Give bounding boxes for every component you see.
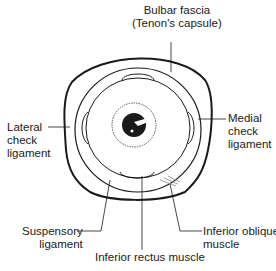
label-medial-check-ligament: Medial check ligament [228,112,271,151]
pupil [122,113,146,137]
label-lateral-check-ligament: Lateral check ligament [7,121,50,160]
label-inferior-rectus-muscle: Inferior rectus muscle [95,251,205,264]
label-inferior-oblique-muscle: Inferior oblique muscle [203,225,276,251]
label-suspensory-ligament: Suspensory ligament [22,225,83,251]
label-bulbar-fascia: Bulbar fascia (Tenon's capsule) [132,4,222,30]
